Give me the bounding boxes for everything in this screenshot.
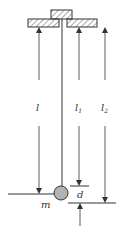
label-m: m <box>41 199 50 210</box>
pendulum-bob <box>54 186 68 200</box>
label-l2: l2 <box>101 102 108 114</box>
pendulum-diagram: l l1 l2 m d <box>0 0 126 236</box>
label-d: d <box>77 189 83 200</box>
label-l1: l1 <box>75 102 82 114</box>
label-l: l <box>36 102 39 113</box>
